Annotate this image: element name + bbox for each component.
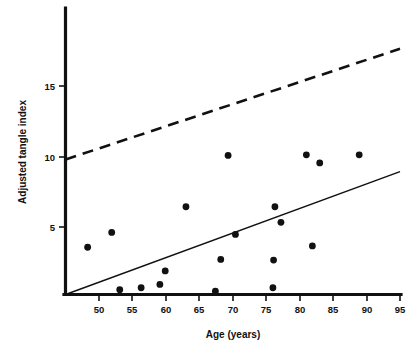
x-tick-label-85: 85	[328, 304, 339, 315]
data-point	[217, 256, 224, 263]
x-tick-label-80: 80	[295, 304, 306, 315]
series-reference-line	[66, 49, 400, 160]
x-tick-label-95: 95	[395, 304, 406, 315]
x-axis-title: Age (years)	[206, 329, 260, 340]
data-point	[183, 203, 190, 210]
data-point	[316, 159, 323, 166]
data-point	[84, 244, 91, 251]
data-point	[156, 281, 163, 288]
data-point	[309, 243, 316, 250]
chart-lines-layer	[66, 49, 400, 295]
x-tick-label-65: 65	[194, 304, 205, 315]
y-tick-label-5: 5	[50, 222, 56, 233]
data-point	[116, 286, 123, 293]
data-point	[303, 151, 310, 158]
y-tick-label-15: 15	[44, 81, 55, 92]
data-point	[138, 284, 145, 291]
x-tick-label-70: 70	[228, 304, 239, 315]
x-tick-label-60: 60	[161, 304, 172, 315]
chart-figure: 15 10 5 50 55 60 65 70 75 80 85 90	[0, 0, 415, 349]
scatter-plot-svg: 15 10 5 50 55 60 65 70 75 80 85 90	[0, 0, 415, 349]
data-point	[270, 257, 277, 264]
data-point	[278, 219, 285, 226]
x-tick-label-55: 55	[127, 304, 138, 315]
data-point	[212, 288, 219, 295]
data-point	[225, 152, 232, 159]
y-tick-label-10: 10	[44, 152, 55, 163]
data-point	[272, 203, 279, 210]
y-axis-title: Adjusted tangle index	[17, 100, 28, 204]
data-point	[270, 284, 277, 291]
x-tick-label-90: 90	[362, 304, 373, 315]
x-tick-label-75: 75	[261, 304, 272, 315]
y-axis-tick-labels: 15 10 5	[44, 81, 55, 233]
x-tick-label-50: 50	[94, 304, 105, 315]
x-axis-tick-labels: 50 55 60 65 70 75 80 85 90 95	[94, 304, 406, 315]
data-point	[108, 229, 115, 236]
data-point	[232, 231, 239, 238]
data-point	[356, 151, 363, 158]
data-point	[162, 267, 169, 274]
